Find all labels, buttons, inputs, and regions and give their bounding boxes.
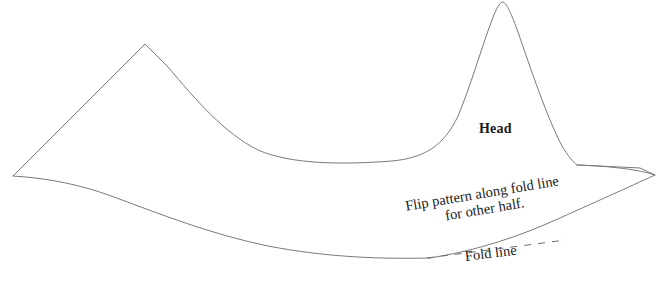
pattern-outline-svg xyxy=(0,0,659,281)
pattern-belly-outline xyxy=(13,176,430,258)
pattern-top-outline xyxy=(13,2,655,176)
head-label: Head xyxy=(479,121,512,137)
pattern-diagram-canvas: p g Head Flip pattern along fold linefor… xyxy=(0,0,659,281)
